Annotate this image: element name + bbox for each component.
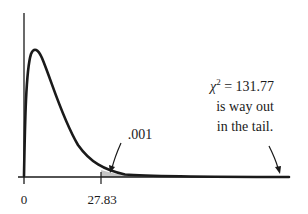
stat-arrowhead (275, 166, 281, 174)
stat-line-3: in the tail. (217, 119, 273, 134)
stat-line-1: χ2 = 131.77 (208, 77, 274, 94)
stat-arrow (269, 146, 278, 168)
tick-label-zero: 0 (21, 192, 28, 207)
tail-area-label: .001 (128, 127, 153, 142)
stat-value: = 131.77 (221, 79, 274, 94)
tick-label-critical: 27.83 (87, 192, 116, 207)
chi-square-chart: 0 27.83 .001 χ2 = 131.77 is way out in t… (0, 0, 308, 214)
tail-arrow (112, 143, 121, 168)
stat-line-2: is way out (216, 99, 274, 114)
